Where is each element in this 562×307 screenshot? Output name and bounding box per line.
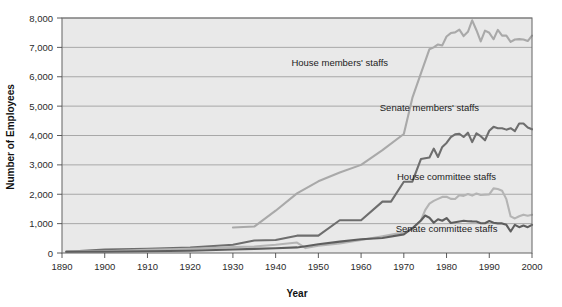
series-label-2: House committee staffs xyxy=(397,171,496,182)
x-tick-label: 1910 xyxy=(137,261,158,272)
x-tick-label: 1920 xyxy=(180,261,201,272)
y-tick-label: 4,000 xyxy=(29,130,53,141)
y-axis-ticks: 01,0002,0003,0004,0005,0006,0007,0008,00… xyxy=(29,13,62,259)
series-label-0: House members' staffs xyxy=(291,57,388,68)
x-tick-label: 1950 xyxy=(308,261,329,272)
x-tick-label: 1970 xyxy=(393,261,414,272)
series-label-3: Senate committee staffs xyxy=(396,223,498,234)
y-tick-label: 6,000 xyxy=(29,71,53,82)
x-axis-ticks: 1890190019101920193019401950196019701980… xyxy=(51,253,542,272)
x-tick-label: 1960 xyxy=(351,261,372,272)
x-tick-label: 1900 xyxy=(94,261,115,272)
figure-container: 01,0002,0003,0004,0005,0006,0007,0008,00… xyxy=(0,0,562,307)
y-tick-label: 5,000 xyxy=(29,101,53,112)
x-tick-label: 1980 xyxy=(436,261,457,272)
y-tick-label: 7,000 xyxy=(29,42,53,53)
x-tick-label: 1990 xyxy=(479,261,500,272)
y-tick-label: 8,000 xyxy=(29,13,53,24)
x-tick-label: 2000 xyxy=(521,261,542,272)
y-axis-title: Number of Employees xyxy=(5,84,16,190)
x-axis-title: Year xyxy=(286,288,307,299)
line-chart: 01,0002,0003,0004,0005,0006,0007,0008,00… xyxy=(0,0,562,307)
y-tick-label: 3,000 xyxy=(29,159,53,170)
y-tick-label: 2,000 xyxy=(29,189,53,200)
x-tick-label: 1930 xyxy=(222,261,243,272)
series-label-1: Senate members' staffs xyxy=(380,102,480,113)
x-tick-label: 1940 xyxy=(265,261,286,272)
x-tick-label: 1890 xyxy=(51,261,72,272)
y-tick-label: 0 xyxy=(48,248,53,259)
y-tick-label: 1,000 xyxy=(29,218,53,229)
